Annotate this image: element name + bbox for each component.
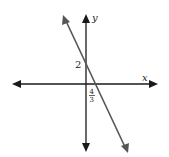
x-intercept-label: 4 3	[89, 88, 95, 104]
line-top-arrow-icon	[62, 15, 70, 25]
x-axis-right-arrow-icon	[149, 80, 158, 88]
x-axis-label: x	[142, 72, 148, 83]
y-axis	[82, 14, 90, 152]
y-axis-up-arrow-icon	[82, 14, 90, 23]
coordinate-graph: y x 2 4 3	[0, 0, 169, 157]
x-intercept-denominator: 3	[90, 96, 94, 104]
y-axis-down-arrow-icon	[82, 143, 90, 152]
x-axis-left-arrow-icon	[12, 80, 21, 88]
x-intercept-numerator: 4	[90, 88, 95, 96]
y-intercept-label: 2	[75, 59, 81, 70]
y-axis-label: y	[91, 12, 98, 23]
line-bottom-arrow-icon	[121, 143, 129, 153]
x-axis	[12, 80, 158, 88]
